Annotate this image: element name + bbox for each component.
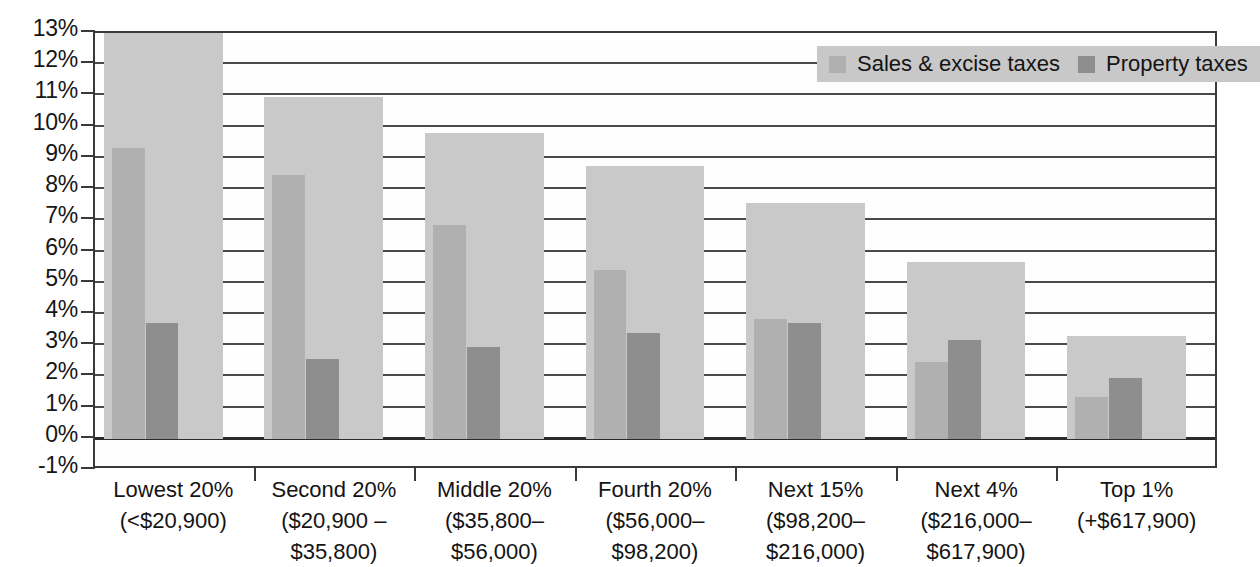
bar-sales [272,175,305,439]
y-axis-tick-label: 9% [0,140,78,167]
x-axis-category-label: Middle 20%($35,800–$56,000) [414,474,575,567]
y-axis-tick-label: 0% [0,421,78,448]
legend-item: Property taxes [1078,51,1248,77]
legend-swatch-icon [1078,56,1095,73]
bar-prop [1109,378,1142,439]
x-axis-label-line: ($35,800– [414,505,575,536]
y-axis-tick-label: 11% [0,77,78,104]
bar-sales [112,148,145,438]
x-axis-label-line: Next 4% [896,474,1057,505]
legend-swatch-icon [829,56,846,73]
x-axis-label-line: Lowest 20% [93,474,254,505]
y-axis-tick-label: 12% [0,46,78,73]
bar-group [737,33,898,470]
x-axis-category-label: Lowest 20%(<$20,900) [93,474,254,536]
legend-label: Sales & excise taxes [857,51,1060,77]
y-axis-tick-label: 8% [0,171,78,198]
y-axis-tick-label: 13% [0,15,78,42]
x-axis-label-line: ($20,900 – [254,505,415,536]
y-axis-tick-label: 10% [0,109,78,136]
bar-sales [754,319,787,439]
x-axis-label-line: Middle 20% [414,474,575,505]
x-axis-label-line: ($56,000– [575,505,736,536]
y-axis-tick-label: 5% [0,265,78,292]
bar-sales [433,225,466,439]
bar-group [416,33,577,470]
x-axis-label-line: $617,900) [896,536,1057,567]
bar-prop [146,323,179,438]
x-axis-category-label: Second 20%($20,900 –$35,800) [254,474,415,567]
y-axis-tick-label: 1% [0,390,78,417]
x-axis-label-line: Next 15% [735,474,896,505]
x-axis-category-label: Next 4%($216,000–$617,900) [896,474,1057,567]
x-axis-category-label: Fourth 20%($56,000–$98,200) [575,474,736,567]
bar-group [1058,33,1219,470]
x-axis-label-line: $35,800) [254,536,415,567]
bar-group [256,33,417,470]
y-axis-tick-label: 7% [0,202,78,229]
x-axis-label-line: $56,000) [414,536,575,567]
plot-area [93,31,1217,468]
y-axis-tick-label: 3% [0,327,78,354]
x-axis-label-line: ($216,000– [896,505,1057,536]
bar-prop [306,359,339,439]
y-axis-tick-label: 6% [0,234,78,261]
bar-group [95,33,256,470]
x-axis-label-line: (<$20,900) [93,505,254,536]
bar-prop [948,340,981,438]
bar-group [898,33,1059,470]
y-axis-tick-label: -1% [0,452,78,479]
x-axis-label-line: $98,200) [575,536,736,567]
chart-legend: Sales & excise taxesProperty taxes [817,46,1260,82]
x-axis-label-line: Second 20% [254,474,415,505]
y-axis-tick-label: 2% [0,358,78,385]
bar-group [577,33,738,470]
x-axis-label-line: (+$617,900) [1056,505,1217,536]
y-axis-tick-label: 4% [0,296,78,323]
bar-sales [1075,397,1108,439]
bar-prop [788,323,821,438]
bar-sales [915,362,948,438]
bar-prop [627,333,660,439]
legend-item: Sales & excise taxes [829,51,1060,77]
x-axis-label-line: Fourth 20% [575,474,736,505]
x-axis-label-line: Top 1% [1056,474,1217,505]
x-axis-category-label: Top 1%(+$617,900) [1056,474,1217,536]
legend-label: Property taxes [1106,51,1248,77]
x-axis-category-label: Next 15%($98,200–$216,000) [735,474,896,567]
x-axis-label-line: ($98,200– [735,505,896,536]
bar-prop [467,347,500,439]
bar-sales [594,270,627,439]
x-axis-label-line: $216,000) [735,536,896,567]
